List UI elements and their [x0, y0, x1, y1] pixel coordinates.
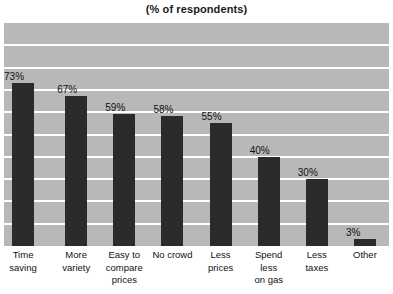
bar-value-label: 30% [298, 167, 338, 178]
x-axis-label: Easy to compare prices [98, 249, 150, 287]
gridline [4, 156, 389, 158]
bar-slot: 67% [65, 23, 87, 246]
x-axis-label: No crowd [146, 249, 198, 262]
bar-value-label: 73% [4, 71, 44, 82]
x-axis-label: Less taxes [291, 249, 343, 274]
gridline [4, 44, 389, 46]
gridline [4, 223, 389, 225]
bar[interactable] [210, 123, 232, 246]
x-axis-label: Time saving [0, 249, 49, 274]
bar-slot: 55% [210, 23, 232, 246]
bar[interactable] [12, 83, 34, 246]
bar-value-label: 3% [346, 227, 386, 238]
bar-slot: 58% [161, 23, 183, 246]
plot-area: 73%67%59%58%55%40%30%3% [4, 23, 389, 246]
bar-value-label: 59% [105, 102, 145, 113]
bar-slot: 30% [306, 23, 328, 246]
bar-chart: (% of respondents) 73%67%59%58%55%40%30%… [0, 0, 393, 294]
gridline [4, 200, 389, 202]
x-axis-label: More variety [50, 249, 102, 274]
bar[interactable] [65, 96, 87, 246]
bar-slot: 73% [12, 23, 34, 246]
bar-value-label: 58% [153, 104, 193, 115]
bar[interactable] [258, 157, 280, 246]
bar-value-label: 67% [57, 84, 97, 95]
bar-slot: 59% [113, 23, 135, 246]
bar[interactable] [161, 116, 183, 246]
bar-slot: 40% [258, 23, 280, 246]
gridline [4, 178, 389, 180]
chart-title: (% of respondents) [0, 3, 393, 15]
gridline [4, 111, 389, 113]
x-axis-label: Other [339, 249, 391, 262]
x-axis-labels: Time savingMore varietyEasy to compare p… [4, 249, 389, 294]
bar-value-label: 40% [250, 145, 290, 156]
bar-slot: 3% [354, 23, 376, 246]
bar[interactable] [354, 239, 376, 246]
bar[interactable] [306, 179, 328, 246]
gridline [4, 67, 389, 69]
x-axis-label: Spend less on gas [243, 249, 295, 287]
bar-value-label: 55% [202, 111, 242, 122]
gridline [4, 134, 389, 136]
x-axis-label: Less prices [195, 249, 247, 274]
bar[interactable] [113, 114, 135, 246]
